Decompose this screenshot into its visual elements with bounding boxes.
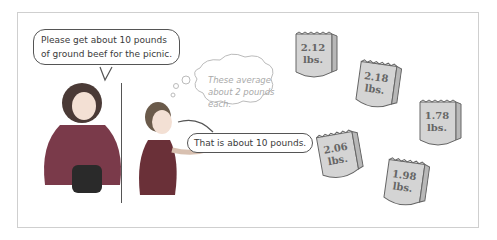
thought-dot: [182, 76, 190, 84]
thought-line: about 2 pounds: [208, 86, 275, 98]
bubble-tail: [100, 67, 112, 80]
bubble-tail: [178, 120, 213, 132]
meat-bag: 1.98lbs.: [381, 155, 432, 213]
thought-text: These average about 2 pounds each.: [208, 74, 275, 110]
thought-dot: [171, 93, 175, 97]
bag-unit: lbs.: [418, 122, 456, 134]
bag-unit: lbs.: [294, 54, 332, 66]
thought-line: each.: [208, 98, 275, 110]
bag-weight: 1.78: [418, 110, 456, 122]
meat-bag: 2.18lbs.: [353, 57, 404, 115]
thought-dot: [174, 84, 179, 89]
bag-weight: 2.12: [294, 42, 332, 54]
meat-bag: 2.12lbs.: [294, 30, 338, 82]
speech-line: That is about 10 pounds.: [194, 138, 306, 148]
mother-figure: [44, 83, 121, 193]
meat-bag: 2.06lbs.: [314, 127, 366, 186]
thought-line: These average: [208, 74, 275, 86]
meat-bag: 1.78lbs.: [418, 98, 462, 150]
panel-divider: [121, 83, 122, 203]
boy-speech-bubble: That is about 10 pounds.: [187, 133, 313, 153]
